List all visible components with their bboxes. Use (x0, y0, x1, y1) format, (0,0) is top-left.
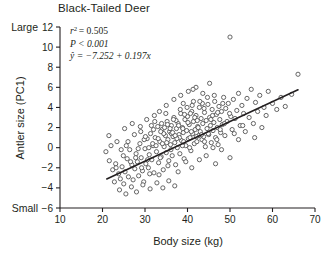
data-point (158, 156, 162, 160)
data-point (266, 89, 270, 93)
data-point (112, 180, 116, 184)
y-tick-label: −2 (42, 162, 54, 173)
data-point (240, 103, 244, 107)
y-tick-label: 12 (42, 22, 54, 33)
data-point (216, 110, 220, 114)
data-point (230, 127, 234, 131)
data-point (245, 96, 249, 100)
data-point (232, 131, 236, 135)
data-point (176, 170, 180, 174)
data-point (235, 108, 239, 112)
data-point (197, 158, 201, 162)
data-point (188, 111, 192, 115)
data-point (171, 117, 175, 121)
data-point (211, 146, 215, 150)
data-point (178, 107, 182, 111)
data-point (173, 184, 177, 188)
data-point (203, 145, 207, 149)
data-point (141, 183, 145, 187)
data-point (228, 35, 232, 39)
data-point (114, 166, 118, 170)
data-point (160, 142, 164, 146)
data-point (126, 140, 130, 144)
data-point (189, 129, 193, 133)
data-point (166, 164, 170, 168)
data-point (118, 177, 122, 181)
data-point (117, 188, 121, 192)
data-point (148, 131, 152, 135)
data-point (218, 117, 222, 121)
y-axis-low-label: Small (12, 202, 38, 214)
y-tick-label: 4 (47, 102, 53, 113)
data-point (217, 104, 221, 108)
data-point (190, 103, 194, 107)
data-point (157, 161, 161, 165)
data-point (167, 179, 171, 183)
data-point (148, 187, 152, 191)
data-point (128, 148, 132, 152)
data-point (195, 140, 199, 144)
data-point (165, 122, 169, 126)
data-point (191, 87, 195, 91)
data-point (167, 159, 171, 163)
data-point (186, 89, 190, 93)
data-point (185, 105, 189, 109)
data-point (196, 125, 200, 129)
data-point (210, 107, 214, 111)
data-point (188, 146, 192, 150)
data-point (157, 109, 161, 113)
data-point (156, 137, 160, 141)
data-point (227, 111, 231, 115)
data-point (258, 93, 262, 97)
data-point (202, 106, 206, 110)
data-point (210, 113, 214, 117)
data-point (283, 104, 287, 108)
data-point (182, 112, 186, 116)
data-point (134, 190, 138, 194)
y-tick-label: −6 (42, 203, 54, 214)
data-point (138, 142, 142, 146)
data-point (202, 110, 206, 114)
data-point (128, 160, 132, 164)
data-point (159, 121, 163, 125)
data-point (174, 163, 178, 167)
data-point (157, 173, 161, 177)
data-point (168, 126, 172, 130)
data-point (253, 136, 257, 140)
data-point (104, 150, 108, 154)
data-point (146, 166, 150, 170)
data-point (191, 99, 195, 103)
x-tick-label: 30 (139, 214, 151, 225)
data-point (107, 134, 111, 138)
data-point (179, 93, 183, 97)
data-point (213, 162, 217, 166)
data-point (148, 172, 152, 176)
data-point (126, 175, 130, 179)
data-point (205, 95, 209, 99)
data-point (260, 125, 264, 129)
data-point (159, 129, 163, 133)
data-point (249, 87, 253, 91)
data-point (209, 117, 213, 121)
data-point (124, 144, 128, 148)
data-point (253, 100, 257, 104)
y-tick-label: 6 (47, 82, 53, 93)
data-point (176, 123, 180, 127)
x-tick-group: 10203040506070 (54, 208, 321, 225)
data-point (251, 121, 255, 125)
data-point (153, 119, 157, 123)
data-point (134, 152, 138, 156)
data-point (219, 148, 223, 152)
data-point (213, 99, 217, 103)
data-point (114, 162, 118, 166)
data-point (145, 117, 149, 121)
x-tick-label: 20 (97, 214, 109, 225)
data-point (164, 111, 168, 115)
data-point (109, 144, 113, 148)
y-tick-label: 10 (42, 42, 54, 53)
data-point (236, 91, 240, 95)
data-point (198, 99, 202, 103)
x-tick-label: 40 (182, 214, 194, 225)
x-tick-label: 70 (309, 214, 321, 225)
data-point (132, 132, 136, 136)
